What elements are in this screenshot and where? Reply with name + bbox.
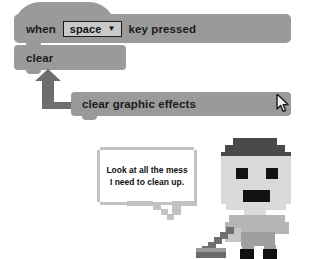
block-clear[interactable]: clear [14,45,126,70]
block-label-key-pressed: key pressed [129,23,197,35]
dropdown-key-selector[interactable]: space ▼ [63,21,122,37]
speech-bubble-line-2: I need to clean up. [110,176,184,188]
block-clear-graphic-effects[interactable]: clear graphic effects [71,92,291,116]
speech-bubble: Look at all the mess I need to clean up. [97,147,197,205]
clear-graphic-effects-bottom-nub [82,115,97,120]
mouse-pointer-icon [276,94,290,112]
dropdown-value: space [70,23,102,35]
pixel-character-with-broom [196,136,317,259]
character-mouth [243,190,270,202]
character-face [221,156,291,210]
character-body [225,209,289,246]
block-when-key-pressed[interactable]: when space ▼ key pressed [14,14,291,43]
block-label-clear-graphic-effects: clear graphic effects [82,98,196,110]
chevron-down-icon: ▼ [108,25,116,33]
speech-bubble-tail [127,201,197,233]
character-shoe-right [263,249,277,259]
character-legs [240,245,277,259]
block-label-clear: clear [26,52,53,64]
block-label-when: when [26,23,56,35]
broom-head [196,248,226,258]
character-eye-left [236,168,248,179]
character-eye-right [266,168,278,179]
character-shoe-left [240,249,254,259]
speech-bubble-line-1: Look at all the mess [106,164,187,176]
speech-bubble-text: Look at all the mess I need to clean up. [97,147,197,205]
illustration-stage: when space ▼ key pressed clear clear gra… [0,0,317,259]
